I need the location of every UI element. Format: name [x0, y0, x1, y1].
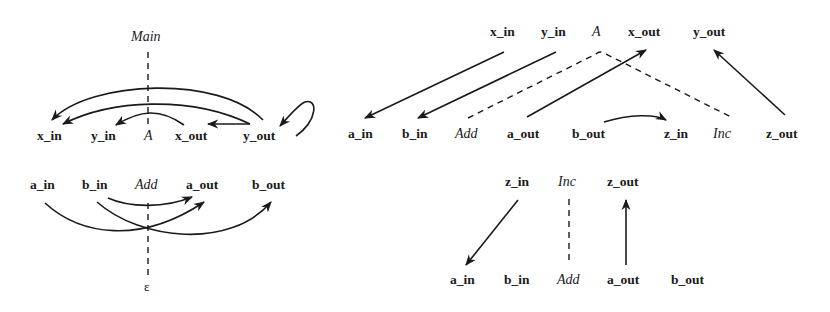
node-z-in: z_in [664, 126, 688, 141]
node-a-out: a_out [507, 126, 540, 141]
add-production-graph: a_in b_in Add a_out b_out ε [30, 177, 286, 294]
node-y-out: y_out [693, 24, 726, 39]
edge-bout-zin [604, 116, 666, 122]
node-add: Add [556, 272, 581, 287]
node-a-in: a_in [30, 177, 55, 192]
node-b-in: b_in [504, 272, 530, 287]
node-a: A [143, 128, 153, 143]
dashed-tree-edges [468, 52, 731, 118]
edge-xout-yin [116, 113, 184, 125]
main-production-graph: Main x_in y_in A x_out y_out [37, 29, 314, 143]
edge-ain-aout [45, 202, 204, 231]
node-x-in: x_in [37, 128, 62, 143]
node-z-out: z_out [766, 126, 798, 141]
edge-bin-bout [97, 202, 271, 234]
node-b-out: b_out [252, 177, 286, 192]
node-x-out: x_out [628, 24, 661, 39]
attribute-dependency-diagram: Main x_in y_in A x_out y_out a_in b_in A… [0, 0, 830, 312]
node-inc: Inc [712, 126, 732, 141]
node-inc: Inc [557, 174, 577, 189]
edge-bin-aout [108, 197, 192, 205]
node-a-out: a_out [186, 177, 219, 192]
edge-xin-ain [365, 52, 504, 118]
node-z-out: z_out [607, 174, 639, 189]
node-b-in: b_in [402, 126, 428, 141]
node-x-in: x_in [490, 24, 515, 39]
edge-yout-self-loop [280, 102, 314, 136]
edge-yin-bin [418, 52, 556, 118]
node-b-out: b_out [671, 272, 705, 287]
node-b-out: b_out [572, 126, 606, 141]
node-x-out: x_out [175, 128, 208, 143]
inc-to-add-graph: z_in Inc z_out a_in b_in Add a_out b_out [450, 174, 705, 287]
node-add: Add [454, 126, 479, 141]
node-a-out: a_out [607, 272, 640, 287]
node-a: A [591, 24, 601, 39]
edge-zout-yout [714, 50, 785, 115]
node-a-in: a_in [450, 272, 475, 287]
node-y-in: y_in [91, 128, 116, 143]
node-b-in: b_in [82, 177, 108, 192]
edge-zin-ain [466, 200, 518, 265]
node-add: Add [134, 177, 159, 192]
edge-aout-xout [527, 50, 646, 117]
node-a-in: a_in [348, 126, 373, 141]
root-label-main: Main [130, 29, 161, 44]
leaf-epsilon: ε [144, 279, 150, 294]
node-z-in: z_in [505, 174, 529, 189]
node-y-in: y_in [541, 24, 566, 39]
node-y-out: y_out [243, 128, 276, 143]
main-to-add-inc-graph: x_in y_in A x_out y_out a_in b_in Add a_… [348, 24, 798, 141]
